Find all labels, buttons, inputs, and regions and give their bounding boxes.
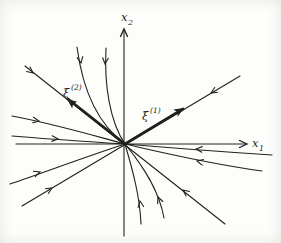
- x1-axis-subscript: 1: [259, 144, 264, 153]
- trajectory-curves: [10, 30, 272, 236]
- phase-portrait-figure: x 2 x 1 ξ (1) ξ (2): [0, 0, 281, 243]
- x2-axis-label: x: [121, 10, 128, 24]
- flow-arrowheads: [27, 29, 247, 207]
- eigenvector2-superscript: (2): [71, 83, 82, 92]
- trajectory-right-2: [125, 144, 262, 171]
- flow-arrow-right-1: [196, 146, 202, 152]
- trajectory-bottom-2: [125, 144, 164, 218]
- phase-portrait-canvas: x 2 x 1 ξ (1) ξ (2): [0, 0, 281, 243]
- eigenvector1-superscript: (1): [150, 106, 161, 115]
- trajectory-left-2: [12, 136, 125, 144]
- eigenvector2-label: ξ: [63, 86, 70, 100]
- x2-axis-subscript: 2: [127, 18, 133, 27]
- flow-arrow-bottom-1: [137, 201, 143, 208]
- trajectory-top-1: [77, 47, 125, 144]
- trajectory-left-3: [10, 144, 125, 184]
- eigenvector1-label: ξ: [142, 109, 149, 123]
- x1-axis-label: x: [252, 136, 259, 150]
